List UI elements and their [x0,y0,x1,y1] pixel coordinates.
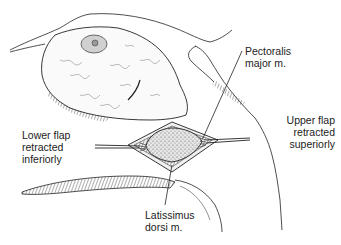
label-upper-flap: Upper flap retracted superiorly [280,114,335,150]
pectoralis-leader-line [203,51,242,138]
anatomical-illustration: Pectoralis major m. Lower flap retracted… [0,0,341,245]
breast [42,27,188,122]
axilla-shading [212,80,245,106]
incision-site [95,122,250,172]
label-pectoralis-major: Pectoralis major m. [245,45,291,69]
label-lower-flap: Lower flap retracted inferiorly [22,129,70,165]
label-latissimus-dorsi: Latissimus dorsi m. [145,209,195,233]
